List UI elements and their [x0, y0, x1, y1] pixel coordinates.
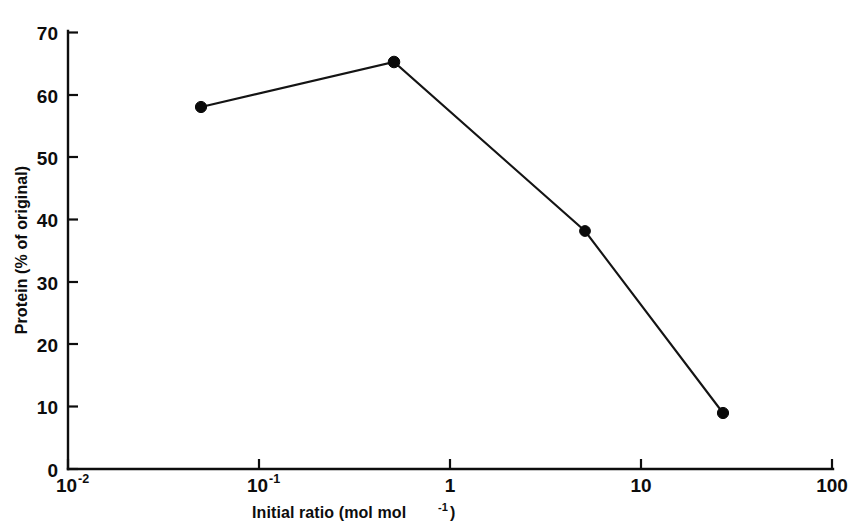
data-point-4 [717, 407, 728, 418]
x-tick-label-1e-1: 10 -1 [247, 472, 280, 496]
x-tick-label-1e-2-exponent: -2 [78, 472, 89, 486]
x-tick-label-1e-2-base: 10 [56, 475, 77, 496]
y-tick-label-40: 40 [37, 210, 58, 231]
x-tick-label-10: 10 [630, 475, 651, 496]
y-tick-label-70: 70 [37, 23, 58, 44]
data-point-3 [580, 226, 591, 237]
x-axis-title-tail: ) [450, 504, 455, 521]
y-axis-tick-labels: 70 60 50 40 30 20 10 0 [37, 23, 58, 481]
y-axis-ticks [68, 33, 78, 470]
x-axis-title-exponent: -1 [438, 501, 448, 513]
x-axis-tick-labels: 10 -2 10 -1 1 10 100 [56, 472, 848, 496]
y-tick-label-60: 60 [37, 86, 58, 107]
x-tick-label-100: 100 [816, 475, 848, 496]
series-line-protein-remaining [201, 62, 723, 413]
line-chart-plot: 70 60 50 40 30 20 10 0 10 -2 10 -1 1 10 … [0, 0, 857, 532]
series-markers-protein-remaining [195, 56, 728, 418]
y-tick-label-20: 20 [37, 335, 58, 356]
x-tick-label-1: 1 [445, 475, 456, 496]
y-tick-label-10: 10 [37, 397, 58, 418]
data-point-1 [195, 101, 206, 112]
data-point-2 [388, 56, 400, 68]
y-tick-label-30: 30 [37, 273, 58, 294]
y-tick-label-50: 50 [37, 148, 58, 169]
x-axis-ticks [68, 459, 832, 469]
x-tick-label-1e-1-exponent: -1 [269, 472, 280, 486]
x-tick-label-1e-2: 10 -2 [56, 472, 89, 496]
x-axis-title: Initial ratio (mol mol -1 ) [252, 501, 455, 521]
y-axis-title: Protein (% of original) [13, 166, 30, 335]
chart-figure: 70 60 50 40 30 20 10 0 10 -2 10 -1 1 10 … [0, 0, 857, 532]
x-tick-label-1e-1-base: 10 [247, 475, 268, 496]
x-axis-title-main: Initial ratio (mol mol [252, 504, 406, 521]
